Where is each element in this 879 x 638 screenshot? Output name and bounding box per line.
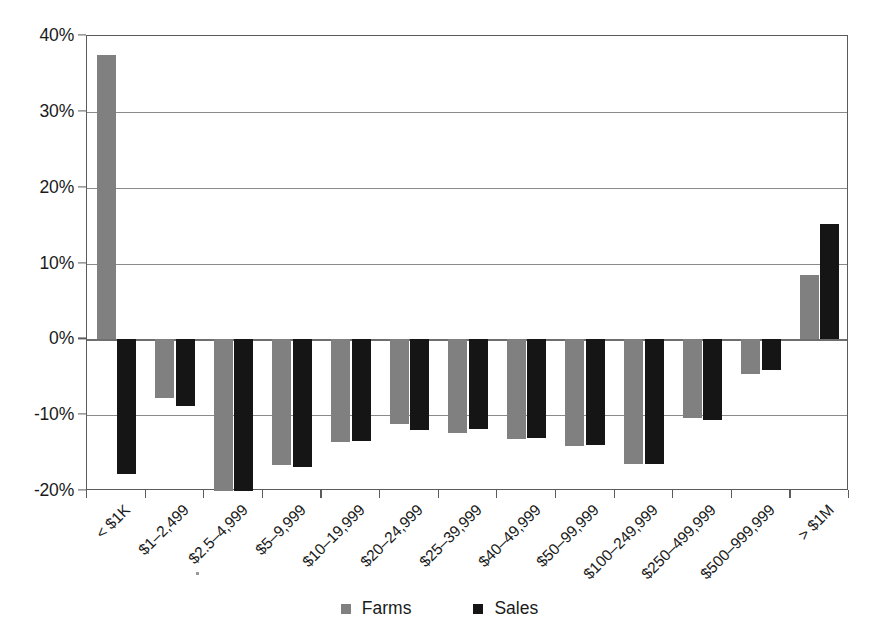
x-tick-mark: [555, 490, 556, 498]
bar-sales: [352, 339, 371, 441]
x-tick-mark: [789, 490, 790, 498]
bar-sales: [703, 339, 722, 419]
y-axis: 40%30%20%10%0%-10%-20%: [0, 0, 86, 530]
bar-farms: [214, 339, 233, 491]
chart-legend: Farms Sales: [0, 598, 879, 619]
legend-item-sales: Sales: [473, 598, 538, 619]
x-tick-mark: [145, 490, 146, 498]
x-tick-mark: [438, 490, 439, 498]
bar-chart: 40%30%20%10%0%-10%-20% < $1K$1–2,499$2.5…: [0, 0, 879, 638]
y-tick-label: 10%: [40, 252, 74, 273]
y-tick-label: 0%: [49, 328, 74, 349]
bar-farms: [155, 339, 174, 397]
x-tick-label: $40–49,999: [474, 501, 544, 571]
y-tick-mark: [78, 34, 86, 35]
bar-farms: [565, 339, 584, 446]
y-tick-mark: [78, 186, 86, 187]
x-tick-mark: [86, 490, 87, 498]
bar-farms: [97, 55, 116, 339]
bar-sales: [820, 224, 839, 339]
y-tick-label: -20%: [34, 480, 74, 501]
bar-sales: [645, 339, 664, 463]
gridline-20%: [87, 188, 847, 189]
y-tick-mark: [78, 414, 86, 415]
x-tick-mark: [320, 490, 321, 498]
bar-sales: [293, 339, 312, 467]
x-tick-mark: [848, 490, 849, 498]
bar-sales: [469, 339, 488, 428]
x-tick-label: $2.5–4,999: [184, 501, 251, 568]
y-tick-label: 40%: [40, 25, 74, 46]
bar-sales: [117, 339, 136, 474]
x-tick-mark: [731, 490, 732, 498]
x-tick-mark: [262, 490, 263, 498]
bar-sales: [176, 339, 195, 406]
x-tick-label: > $1M: [794, 501, 837, 544]
bar-farms: [741, 339, 760, 374]
x-tick-mark: [614, 490, 615, 498]
x-tick-label: $25–39,999: [416, 501, 486, 571]
bar-farms: [272, 339, 291, 465]
y-tick-mark: [78, 110, 86, 111]
x-tick-label: $1–2,499: [135, 501, 193, 559]
y-tick-mark: [78, 262, 86, 263]
bar-farms: [331, 339, 350, 442]
y-tick-label: 20%: [40, 176, 74, 197]
sales-swatch-icon: [473, 604, 483, 614]
bar-farms: [624, 339, 643, 464]
y-tick-mark: [78, 489, 86, 490]
bar-sales: [410, 339, 429, 429]
x-tick-mark: [379, 490, 380, 498]
bar-sales: [527, 339, 546, 438]
scan-speck: [196, 572, 199, 575]
y-tick-label: -10%: [34, 404, 74, 425]
y-tick-label: 30%: [40, 100, 74, 121]
bar-farms: [507, 339, 526, 438]
y-tick-mark: [78, 338, 86, 339]
x-tick-label: $5–9,999: [252, 501, 310, 559]
x-tick-mark: [203, 490, 204, 498]
bar-farms: [448, 339, 467, 432]
gridline-10%: [87, 264, 847, 265]
x-tick-mark: [496, 490, 497, 498]
bar-farms: [390, 339, 409, 424]
bar-sales: [586, 339, 605, 445]
bar-sales: [762, 339, 781, 369]
legend-label-sales: Sales: [494, 598, 538, 619]
x-tick-label: $20–24,999: [357, 501, 427, 571]
bar-farms: [683, 339, 702, 418]
legend-label-farms: Farms: [362, 598, 412, 619]
x-tick-label: $10–19,999: [299, 501, 369, 571]
x-tick-mark: [672, 490, 673, 498]
bar-sales: [234, 339, 253, 491]
farms-swatch-icon: [341, 604, 351, 614]
plot-area: [86, 35, 848, 490]
legend-item-farms: Farms: [341, 598, 412, 619]
x-tick-label: < $1K: [93, 501, 134, 542]
bar-farms: [800, 275, 819, 339]
gridline-30%: [87, 112, 847, 113]
